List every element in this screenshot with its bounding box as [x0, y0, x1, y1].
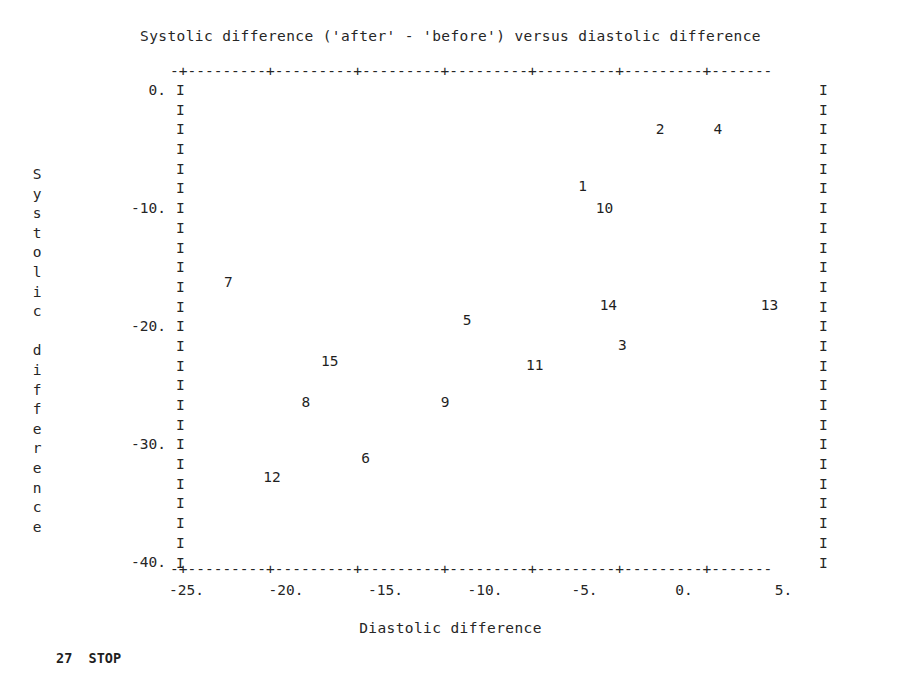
axis-border-tick: I	[176, 416, 185, 436]
axis-border-tick: I	[176, 376, 185, 396]
axis-border-tick: I	[176, 160, 185, 180]
data-point-label: 6	[361, 451, 370, 465]
x-tick-label: 5.	[775, 583, 792, 597]
axis-border-tick: I	[176, 179, 185, 199]
axis-border-tick: I	[176, 140, 185, 160]
y-axis-ticks: 0.-10.-20.-30.-40.	[104, 0, 166, 675]
axis-border-tick: I	[819, 219, 828, 239]
data-point-label: 7	[224, 275, 233, 289]
y-axis-title-char: e	[28, 459, 46, 479]
y-tick-label: -20.	[104, 319, 166, 333]
data-point-label: 2	[656, 122, 665, 136]
y-axis-title-char: i	[28, 283, 46, 303]
axis-border-tick: I	[819, 140, 828, 160]
y-axis-title-char: S	[28, 165, 46, 185]
axis-border-tick: I	[819, 298, 828, 318]
data-point-label: 10	[596, 201, 613, 215]
axis-border-tick: I	[176, 258, 185, 278]
axis-border-tick: I	[819, 475, 828, 495]
x-tick-label: -5.	[571, 583, 597, 597]
x-axis-ticks: -25.-20.-15.-10.-5.0.5.	[0, 583, 901, 605]
right-axis-border: IIIIIIIIIIIIIIIIIIIIIIIII	[819, 81, 828, 573]
y-axis-title-char: f	[28, 381, 46, 401]
y-tick-label: -40.	[104, 555, 166, 569]
x-tick-label: -10.	[468, 583, 503, 597]
axis-border-tick: I	[176, 317, 185, 337]
data-point-label: 9	[441, 395, 450, 409]
axis-border-tick: I	[819, 101, 828, 121]
axis-border-tick: I	[176, 455, 185, 475]
y-axis-title-char: d	[28, 341, 46, 361]
x-tick-label: -15.	[368, 583, 403, 597]
y-axis-title-char: c	[28, 302, 46, 322]
axis-border-tick: I	[176, 435, 185, 455]
y-tick-label: 0.	[104, 83, 166, 97]
axis-border-tick: I	[819, 534, 828, 554]
axis-border-tick: I	[819, 554, 828, 574]
top-axis-rule: -+---------+---------+---------+--------…	[170, 64, 772, 78]
data-point-label: 15	[321, 354, 338, 368]
axis-border-tick: I	[176, 337, 185, 357]
axis-border-tick: I	[176, 298, 185, 318]
y-axis-title-char: s	[28, 204, 46, 224]
axis-border-tick: I	[176, 199, 185, 219]
axis-border-tick: I	[819, 416, 828, 436]
y-tick-label: -30.	[104, 437, 166, 451]
y-axis-title-char: e	[28, 420, 46, 440]
axis-border-tick: I	[819, 396, 828, 416]
y-axis-title-char: y	[28, 185, 46, 205]
x-axis-title: Diastolic difference	[0, 620, 901, 636]
y-axis-title-char: n	[28, 479, 46, 499]
y-axis-title-char: o	[28, 243, 46, 263]
axis-border-tick: I	[819, 376, 828, 396]
axis-border-tick: I	[819, 435, 828, 455]
x-tick-label: 0.	[675, 583, 692, 597]
axis-border-tick: I	[819, 317, 828, 337]
y-axis-title-char: t	[28, 224, 46, 244]
axis-border-tick: I	[176, 120, 185, 140]
axis-border-tick: I	[176, 239, 185, 259]
data-point-label: 12	[263, 470, 280, 484]
axis-border-tick: I	[176, 494, 185, 514]
axis-border-tick: I	[819, 160, 828, 180]
y-axis-title-char: f	[28, 400, 46, 420]
y-tick-label: -10.	[104, 201, 166, 215]
y-axis-title-char: r	[28, 439, 46, 459]
axis-border-tick: I	[819, 494, 828, 514]
y-axis-title-char	[28, 322, 46, 342]
data-point-label: 8	[302, 395, 311, 409]
data-point-label: 13	[761, 298, 778, 312]
data-point-label: 1	[578, 179, 587, 193]
axis-border-tick: I	[819, 179, 828, 199]
axis-border-tick: I	[819, 239, 828, 259]
axis-border-tick: I	[176, 554, 185, 574]
data-point-label: 11	[526, 358, 543, 372]
axis-border-tick: I	[819, 455, 828, 475]
axis-border-tick: I	[176, 475, 185, 495]
y-axis-title-char: i	[28, 361, 46, 381]
left-axis-border: IIIIIIIIIIIIIIIIIIIIIIIII	[176, 81, 185, 573]
x-tick-label: -20.	[269, 583, 304, 597]
data-point-label: 14	[600, 298, 617, 312]
axis-border-tick: I	[819, 357, 828, 377]
terminal-footer-line: 27 STOP	[56, 650, 121, 666]
axis-border-tick: I	[819, 120, 828, 140]
data-point-label: 3	[618, 338, 627, 352]
y-axis-title: Systolic difference	[28, 165, 46, 537]
axis-border-tick: I	[176, 357, 185, 377]
axis-border-tick: I	[819, 81, 828, 101]
axis-border-tick: I	[819, 199, 828, 219]
data-point-label: 4	[713, 122, 722, 136]
x-tick-label: -25.	[169, 583, 204, 597]
y-axis-title-char: c	[28, 498, 46, 518]
axis-border-tick: I	[819, 258, 828, 278]
axis-border-tick: I	[819, 337, 828, 357]
plot-area: -+---------+---------+---------+--------…	[0, 0, 901, 675]
axis-border-tick: I	[176, 101, 185, 121]
bottom-axis-rule: -+---------+---------+---------+--------…	[170, 562, 772, 576]
axis-border-tick: I	[819, 514, 828, 534]
y-axis-title-char: e	[28, 518, 46, 538]
axis-border-tick: I	[176, 278, 185, 298]
axis-border-tick: I	[176, 219, 185, 239]
axis-border-tick: I	[176, 81, 185, 101]
